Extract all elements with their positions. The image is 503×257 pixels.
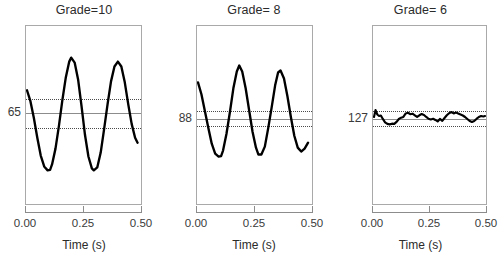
multi-panel-chart: Grade=10 65 0.00 0.25 0.50 Time (s) Grad… bbox=[0, 0, 503, 257]
x-tick-1 bbox=[429, 206, 430, 213]
x-tick-label-0: 0.00 bbox=[352, 217, 392, 229]
x-tick-label-2: 0.50 bbox=[121, 217, 161, 229]
x-tick-2 bbox=[486, 206, 487, 213]
x-tick-label-0: 0.00 bbox=[176, 217, 216, 229]
panel-title: Grade= 8 bbox=[170, 3, 338, 17]
x-tick-label-1: 0.25 bbox=[409, 217, 449, 229]
panel-title: Grade=10 bbox=[0, 3, 168, 17]
plot-area bbox=[25, 25, 142, 205]
panel-grade-8: Grade= 8 88 0.00 0.25 0.50 Time (s) bbox=[170, 0, 338, 257]
x-tick-2 bbox=[141, 206, 142, 213]
x-tick-label-2: 0.50 bbox=[466, 217, 503, 229]
x-tick-label-1: 0.25 bbox=[234, 217, 274, 229]
x-tick-1 bbox=[254, 206, 255, 213]
x-axis-title: Time (s) bbox=[338, 238, 503, 252]
signal-curve bbox=[197, 26, 312, 204]
panel-grade-6: Grade= 6 127 0.00 0.25 0.50 Time (s) bbox=[338, 0, 503, 257]
x-tick-label-0: 0.00 bbox=[5, 217, 45, 229]
signal-curve bbox=[373, 26, 486, 204]
x-tick-0 bbox=[25, 206, 26, 213]
signal-curve bbox=[26, 26, 141, 204]
y-axis-center-label: 127 bbox=[340, 111, 368, 125]
x-tick-1 bbox=[83, 206, 84, 213]
plot-area bbox=[372, 25, 487, 205]
x-axis-title: Time (s) bbox=[170, 238, 338, 252]
x-axis-title: Time (s) bbox=[0, 238, 168, 252]
plot-area bbox=[196, 25, 313, 205]
y-axis-center-label: 65 bbox=[0, 105, 21, 119]
panel-title: Grade= 6 bbox=[338, 3, 503, 17]
y-axis-center-label: 88 bbox=[170, 111, 192, 125]
x-tick-label-1: 0.25 bbox=[63, 217, 103, 229]
x-tick-0 bbox=[196, 206, 197, 213]
panel-grade-10: Grade=10 65 0.00 0.25 0.50 Time (s) bbox=[0, 0, 168, 257]
x-tick-2 bbox=[312, 206, 313, 213]
x-tick-0 bbox=[372, 206, 373, 213]
x-tick-label-2: 0.50 bbox=[292, 217, 332, 229]
